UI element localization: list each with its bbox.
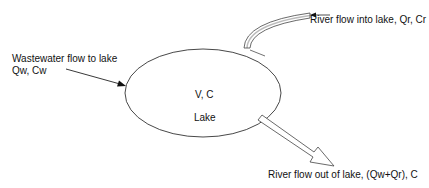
- river-outflow-label: River flow out of lake, (Qw+Qr), C: [268, 169, 418, 181]
- diagram-canvas: [0, 0, 429, 188]
- wastewater-inflow-variables: Qw, Cw: [12, 65, 46, 77]
- lake-variables: V, C: [195, 89, 214, 101]
- wastewater-arrow-icon: [66, 69, 126, 87]
- river-inflow-label: River flow into lake, Qr, Cr: [310, 14, 426, 26]
- river-outflow-arrow-icon: [258, 115, 334, 166]
- wastewater-inflow-label: Wastewater flow to lake: [12, 53, 117, 65]
- lake-name: Lake: [194, 112, 216, 124]
- lake-mass-balance-diagram: Wastewater flow to lake Qw, Cw River flo…: [0, 0, 429, 188]
